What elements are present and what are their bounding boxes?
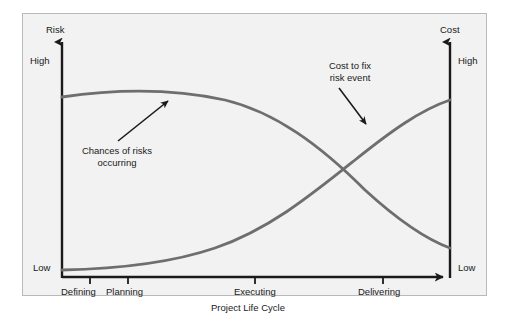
risk-cost-chart-figure: Risk High Low Cost High Low Defining Pla… bbox=[0, 0, 511, 324]
risk-annotation-line1: Chances of risks bbox=[62, 145, 172, 157]
left-axis-low-label: Low bbox=[33, 262, 50, 273]
risk-curve bbox=[62, 91, 450, 248]
right-axis-low-label: Low bbox=[458, 262, 475, 273]
right-axis-title: Cost bbox=[440, 24, 460, 35]
cost-annotation-line1: Cost to fix bbox=[312, 60, 388, 72]
right-axis-high-label: High bbox=[458, 55, 478, 66]
x-tick-label-defining: Defining bbox=[61, 286, 96, 297]
x-tick-label-delivering: Delivering bbox=[358, 286, 400, 297]
x-tick-label-planning: Planning bbox=[106, 286, 143, 297]
x-tick-label-executing: Executing bbox=[234, 286, 276, 297]
left-axis-high-label: High bbox=[30, 55, 50, 66]
risk-annotation-arrow bbox=[118, 101, 168, 141]
cost-annotation-line2: risk event bbox=[312, 72, 388, 84]
risk-annotation-line2: occurring bbox=[62, 157, 172, 169]
cost-curve bbox=[62, 100, 450, 270]
risk-annotation: Chances of risks occurring bbox=[62, 145, 172, 168]
left-axis-title: Risk bbox=[46, 24, 64, 35]
cost-annotation: Cost to fix risk event bbox=[312, 60, 388, 83]
cost-annotation-arrow bbox=[339, 88, 366, 124]
x-axis-title: Project Life Cycle bbox=[211, 302, 285, 313]
